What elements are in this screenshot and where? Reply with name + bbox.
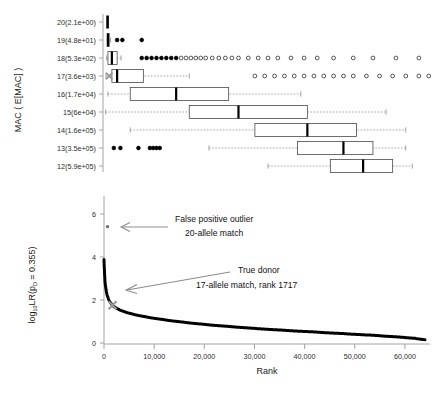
mac-y-axis-title: MAC ( E[MAC] ) xyxy=(13,68,23,133)
figure-root: MAC ( E[MAC] ) 20(2.1e+00) 19(4.8e+01) 1… xyxy=(0,0,438,396)
outlier-point xyxy=(174,56,178,60)
outlier-point xyxy=(120,38,124,42)
false-positive-line2: 20-allele match xyxy=(185,228,243,238)
box-rect xyxy=(130,88,228,101)
outlier-point xyxy=(137,146,141,150)
outlier-point xyxy=(140,56,144,60)
lr-x-tick-label: 20,000 xyxy=(193,352,215,361)
false-positive-point xyxy=(106,225,109,228)
lr-x-tick-label: 60,000 xyxy=(394,352,416,361)
box-degenerate xyxy=(106,16,109,29)
lr-x-tick-label: 50,000 xyxy=(344,352,366,361)
lr-x-tick-label: 30,000 xyxy=(243,352,265,361)
mac-box-row xyxy=(106,16,109,29)
outlier-point xyxy=(164,56,168,60)
box-rect xyxy=(189,106,307,119)
lr-y-tick-label-4: 4 xyxy=(92,253,96,262)
mac-tick-label-13: 13(3.5e+05) xyxy=(57,144,96,153)
false-positive-line1: False positive outlier xyxy=(175,214,253,224)
true-donor-line2: 17-allele match, rank 1717 xyxy=(196,280,297,290)
lr-x-tick-label: 10,000 xyxy=(143,352,165,361)
outlier-point xyxy=(150,56,154,60)
outlier-point xyxy=(140,38,144,42)
mac-tick-label-12: 12(5.9e+05) xyxy=(57,162,96,171)
mac-tick-label-17: 17(3.6e+03) xyxy=(57,72,96,81)
mac-tick-label-20: 20(2.1e+00) xyxy=(57,18,96,27)
outlier-point xyxy=(155,56,159,60)
outlier-point xyxy=(115,38,119,42)
outlier-point xyxy=(158,146,162,150)
lr-x-tick-label: 0 xyxy=(102,352,106,361)
mac-tick-label-19: 19(4.8e+01) xyxy=(57,36,96,45)
lr-x-axis-title: Rank xyxy=(256,366,278,376)
lr-y-tick-label-6: 6 xyxy=(92,210,96,219)
box-rect xyxy=(255,124,357,137)
lr-title-log: log xyxy=(27,312,37,324)
lr-title-lr: LR(p xyxy=(27,286,37,306)
mac-tick-label-18: 18(5.3e+02) xyxy=(57,54,96,63)
mac-tick-label-14: 14(1.6e+05) xyxy=(57,126,96,135)
mac-tick-label-16: 16(1.7e+04) xyxy=(57,90,96,99)
outlier-point xyxy=(112,146,116,150)
lr-y-tick-label-0: 0 xyxy=(92,339,96,348)
lr-x-tick-label: 40,000 xyxy=(294,352,316,361)
box-rect xyxy=(298,142,373,155)
outlier-point xyxy=(169,56,173,60)
lr-title-end: = 0.355) xyxy=(27,246,37,282)
figure-svg: MAC ( E[MAC] ) 20(2.1e+00) 19(4.8e+01) 1… xyxy=(0,0,438,396)
true-donor-line1: True donor xyxy=(238,265,280,275)
mac-tick-label-15: 15(6e+04) xyxy=(63,108,96,117)
outlier-point xyxy=(119,146,123,150)
box-rect xyxy=(330,160,392,173)
outlier-point xyxy=(160,56,164,60)
outlier-point xyxy=(145,56,149,60)
lr-y-tick-label-2: 2 xyxy=(92,296,96,305)
